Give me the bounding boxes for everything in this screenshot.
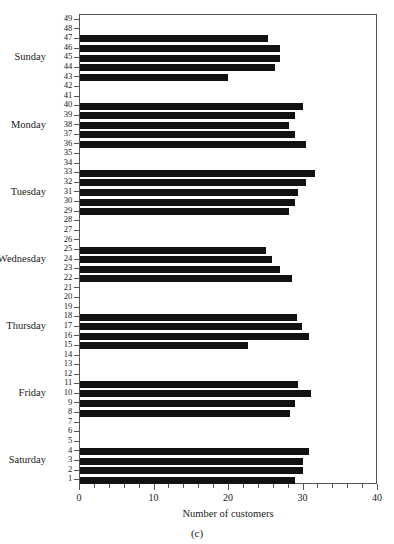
y-tick-label: 25 — [50, 244, 72, 253]
bar-row — [80, 266, 378, 273]
bar-row — [80, 275, 378, 282]
y-tick-label: 40 — [50, 100, 72, 109]
bar-row — [80, 400, 378, 407]
x-tick-mark-minor — [288, 484, 289, 488]
y-tick-label: 13 — [50, 359, 72, 368]
x-tick-mark-major — [154, 484, 155, 490]
bar — [80, 122, 289, 129]
day-group-label: Sunday — [15, 51, 47, 62]
y-tick-label: 45 — [50, 52, 72, 61]
bar — [80, 141, 306, 148]
bar — [80, 275, 292, 282]
y-tick-label: 1 — [50, 474, 72, 483]
x-tick-mark-minor — [124, 484, 125, 488]
bar-row — [80, 247, 378, 254]
bar — [80, 390, 311, 397]
x-tick-mark-major — [228, 484, 229, 490]
bar — [80, 247, 266, 254]
y-tick-label: 2 — [50, 465, 72, 474]
x-tick-label: 20 — [213, 492, 243, 503]
bar-row — [80, 141, 378, 148]
y-tick-label: 9 — [50, 398, 72, 407]
y-tick-label: 14 — [50, 350, 72, 359]
y-tick-label: 39 — [50, 110, 72, 119]
y-tick-label: 48 — [50, 24, 72, 33]
x-tick-label: 30 — [288, 492, 318, 503]
bar-row — [80, 170, 378, 177]
bar — [80, 314, 297, 321]
y-tick-label: 41 — [50, 91, 72, 100]
x-tick-mark-major — [79, 484, 80, 490]
y-tick-label: 31 — [50, 187, 72, 196]
bar-row — [80, 323, 378, 330]
x-tick-mark-minor — [332, 484, 333, 488]
y-tick-label: 20 — [50, 292, 72, 301]
y-tick-label: 33 — [50, 167, 72, 176]
bar-row — [80, 477, 378, 484]
y-tick-label: 6 — [50, 426, 72, 435]
day-group-label: Tuesday — [11, 186, 46, 197]
bar — [80, 199, 295, 206]
bar-row — [80, 199, 378, 206]
figure-container: SundayMondayTuesdayWednesdayThursdayFrid… — [0, 0, 394, 544]
bar-row — [80, 74, 378, 81]
bar — [80, 256, 272, 263]
bar — [80, 179, 306, 186]
x-tick-mark-minor — [258, 484, 259, 488]
y-tick-label: 17 — [50, 321, 72, 330]
bar — [80, 103, 303, 110]
y-tick-label: 43 — [50, 72, 72, 81]
x-tick-label: 0 — [64, 492, 94, 503]
bar-row — [80, 55, 378, 62]
bar-row — [80, 467, 378, 474]
bar-row — [80, 131, 378, 138]
y-tick-label: 7 — [50, 417, 72, 426]
bar — [80, 448, 309, 455]
x-tick-label: 40 — [362, 492, 392, 503]
y-tick-label: 38 — [50, 120, 72, 129]
day-group-label: Wednesday — [0, 253, 46, 264]
bar — [80, 410, 290, 417]
y-tick-label: 3 — [50, 455, 72, 464]
y-tick-label: 46 — [50, 43, 72, 52]
y-tick-label: 44 — [50, 62, 72, 71]
day-group-label: Thursday — [6, 320, 46, 331]
x-tick-mark-major — [377, 484, 378, 490]
bar-row — [80, 381, 378, 388]
bar — [80, 35, 268, 42]
bar — [80, 458, 303, 465]
bar-row — [80, 189, 378, 196]
bar — [80, 208, 289, 215]
bar-row — [80, 458, 378, 465]
y-tick-label: 11 — [50, 378, 72, 387]
y-tick-label: 4 — [50, 446, 72, 455]
y-tick-label: 28 — [50, 215, 72, 224]
bar — [80, 342, 248, 349]
y-axis-tick-labels: 1234567891011121314151617181920212223242… — [48, 0, 72, 544]
y-tick-label: 42 — [50, 81, 72, 90]
y-tick-label: 47 — [50, 33, 72, 42]
y-tick-label: 10 — [50, 388, 72, 397]
y-tick-label: 23 — [50, 263, 72, 272]
bar — [80, 131, 295, 138]
day-group-label-axis: SundayMondayTuesdayWednesdayThursdayFrid… — [0, 0, 48, 544]
y-tick-label: 35 — [50, 148, 72, 157]
x-axis-title: Number of customers — [79, 508, 377, 520]
x-tick-mark-minor — [183, 484, 184, 488]
x-tick-mark-minor — [273, 484, 274, 488]
bar-row — [80, 333, 378, 340]
bar — [80, 170, 315, 177]
figure-caption: (c) — [0, 527, 394, 540]
x-tick-mark-minor — [362, 484, 363, 488]
bar-row — [80, 64, 378, 71]
day-group-label: Friday — [19, 387, 46, 398]
y-tick-label: 22 — [50, 273, 72, 282]
x-tick-label: 10 — [139, 492, 169, 503]
bar — [80, 400, 295, 407]
bar — [80, 64, 275, 71]
y-tick-label: 27 — [50, 225, 72, 234]
y-tick-label: 34 — [50, 158, 72, 167]
bar — [80, 55, 280, 62]
plot-area — [79, 14, 377, 484]
x-tick-mark-minor — [109, 484, 110, 488]
